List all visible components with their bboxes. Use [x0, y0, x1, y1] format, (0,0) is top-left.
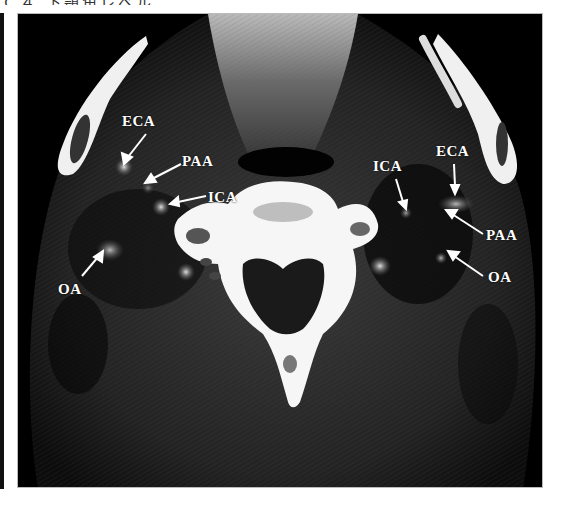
label-right-paa: PAA	[486, 228, 517, 243]
label-left-oa: OA	[58, 282, 82, 297]
ct-image: ECA PAA ICA OA ICA ECA PAA OA	[17, 13, 543, 488]
left-vertebral-vessel	[177, 263, 195, 281]
left-ica-vessel	[152, 198, 170, 216]
right-vertebral-vessel	[369, 256, 391, 276]
label-right-oa: OA	[488, 270, 512, 285]
label-left-ica: ICA	[208, 190, 237, 205]
label-right-eca: ECA	[436, 144, 469, 159]
ct-scan-graphic	[18, 14, 543, 488]
label-left-eca: ECA	[122, 114, 155, 129]
partial-caption: Ｃ４ 下顎角レベル	[2, 0, 154, 5]
label-right-ica: ICA	[373, 159, 402, 174]
adjacent-figure-edge	[0, 13, 4, 489]
right-oa-vessel	[435, 252, 447, 264]
label-left-paa: PAA	[182, 154, 213, 169]
